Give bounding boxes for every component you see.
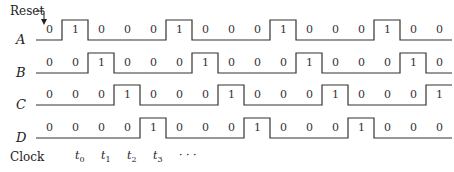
bit-value: 0	[436, 23, 443, 36]
clock-tick: · · ·	[179, 149, 196, 162]
bit-value: 1	[176, 23, 183, 36]
bit-value: 0	[228, 56, 235, 69]
bit-value: 0	[98, 121, 105, 134]
bit-value: 0	[332, 56, 339, 69]
bit-value: 0	[384, 121, 391, 134]
bit-value: 0	[410, 121, 417, 134]
bit-value: 1	[254, 121, 261, 134]
waveforms: A0100010001000100B0010001000100010C00010…	[15, 20, 452, 145]
bit-value: 0	[332, 121, 339, 134]
bit-value: 1	[228, 88, 235, 101]
bit-value: 0	[46, 88, 53, 101]
bit-value: 0	[228, 23, 235, 36]
clock-tick: t0	[75, 149, 85, 164]
bit-value: 0	[72, 88, 79, 101]
bit-value: 0	[254, 23, 261, 36]
bit-value: 0	[46, 23, 53, 36]
bit-value: 0	[124, 121, 131, 134]
bit-value: 0	[72, 121, 79, 134]
bit-value: 1	[202, 56, 209, 69]
bit-value: 1	[98, 56, 105, 69]
bit-value: 1	[280, 23, 287, 36]
bit-value: 0	[410, 23, 417, 36]
bit-value: 0	[358, 88, 365, 101]
bit-value: 1	[332, 88, 339, 101]
signal-b: B0010001000100010	[15, 53, 452, 80]
bit-value: 0	[46, 56, 53, 69]
clock-tick: t1	[101, 149, 111, 164]
clock-tick: t3	[153, 149, 163, 164]
bit-value: 0	[150, 88, 157, 101]
bit-value: 0	[124, 56, 131, 69]
reset-annotation: Reset	[10, 4, 44, 22]
bit-value: 0	[280, 56, 287, 69]
bit-value: 1	[306, 56, 313, 69]
bit-value: 0	[124, 23, 131, 36]
bit-value: 0	[384, 88, 391, 101]
bit-value: 0	[280, 121, 287, 134]
clock-label: Clock	[10, 150, 45, 164]
bit-value: 0	[176, 56, 183, 69]
bit-value: 0	[358, 23, 365, 36]
bit-value: 0	[202, 23, 209, 36]
bit-value: 0	[280, 88, 287, 101]
bit-value: 0	[254, 88, 261, 101]
bit-value: 0	[254, 56, 261, 69]
bit-value: 0	[306, 88, 313, 101]
signal-name: B	[15, 65, 26, 80]
bit-value: 0	[306, 23, 313, 36]
bit-value: 0	[410, 88, 417, 101]
signal-name: A	[15, 32, 25, 47]
bit-value: 0	[332, 23, 339, 36]
bit-value: 0	[202, 121, 209, 134]
bit-value: 1	[124, 88, 131, 101]
bit-value: 0	[306, 121, 313, 134]
bit-value: 1	[384, 23, 391, 36]
bit-value: 0	[150, 56, 157, 69]
bit-value: 0	[228, 121, 235, 134]
bit-value: 0	[176, 88, 183, 101]
bit-value: 0	[98, 23, 105, 36]
bit-value: 0	[98, 88, 105, 101]
signal-a: A0100010001000100	[15, 20, 452, 47]
signal-name: D	[15, 130, 27, 145]
bit-value: 1	[358, 121, 365, 134]
bit-value: 1	[72, 23, 79, 36]
bit-value: 0	[436, 56, 443, 69]
signal-c: C0001000100010001	[16, 85, 452, 112]
bit-value: 1	[436, 88, 443, 101]
ring-counter-timing-diagram: Reset A0100010001000100B0010001000100010…	[0, 0, 454, 172]
bit-value: 0	[72, 56, 79, 69]
bit-value: 1	[410, 56, 417, 69]
signal-d: D0000100010001000	[15, 118, 452, 145]
bit-value: 0	[384, 56, 391, 69]
bit-value: 0	[202, 88, 209, 101]
bit-value: 0	[176, 121, 183, 134]
signal-name: C	[16, 97, 26, 112]
bit-value: 1	[150, 121, 157, 134]
bit-value: 0	[358, 56, 365, 69]
bit-value: 0	[150, 23, 157, 36]
clock-tick: t2	[127, 149, 137, 164]
bit-value: 0	[46, 121, 53, 134]
bit-value: 0	[436, 121, 443, 134]
clock-row: Clock t0t1t2t3· · ·	[10, 149, 196, 164]
